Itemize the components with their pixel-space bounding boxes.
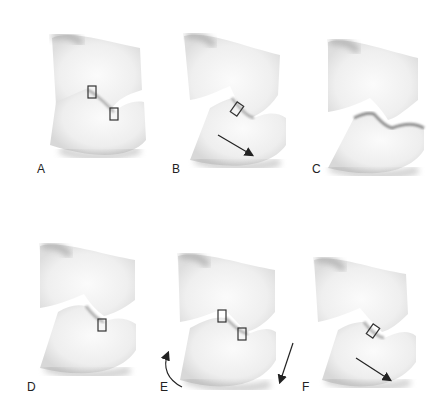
curved-arrow-icon (166, 353, 182, 387)
arrow-icon (280, 343, 293, 382)
panel-label: C (312, 162, 321, 176)
panel-label: A (37, 162, 45, 176)
panel-f: F (298, 220, 448, 417)
panel-label: E (160, 380, 168, 394)
tooth-pair-illustration (150, 220, 300, 417)
panel-a: A (0, 0, 150, 200)
panel-d: D (0, 220, 150, 417)
panel-label: F (302, 380, 309, 394)
panel-e: E (150, 220, 300, 417)
tooth-pair-illustration (0, 0, 150, 200)
panel-b: B (150, 0, 300, 200)
panel-label: D (27, 380, 36, 394)
tooth-pair-illustration (298, 220, 448, 417)
panel-c: C (298, 0, 448, 200)
panel-label: B (172, 162, 180, 176)
tooth-pair-illustration (0, 220, 150, 417)
